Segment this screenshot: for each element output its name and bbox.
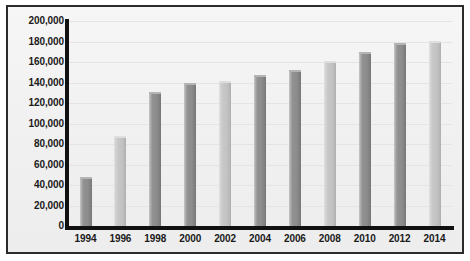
bar-top-cap [394, 43, 406, 45]
y-tick-label: 120,000 [10, 98, 64, 108]
y-tick-label: 160,000 [10, 57, 64, 67]
x-tick-label: 2002 [207, 233, 243, 245]
bar-2002[interactable] [219, 81, 231, 227]
x-tick-label: 2010 [347, 233, 383, 245]
bar-2014[interactable] [429, 41, 441, 227]
bar-body [80, 177, 92, 226]
x-tick-label: 1998 [137, 233, 173, 245]
bar-2004[interactable] [254, 75, 266, 226]
y-tick-label: 180,000 [10, 37, 64, 47]
bar-top-cap [429, 41, 441, 43]
y-tick-label: 20,000 [10, 201, 64, 211]
bar-top-cap [324, 61, 336, 63]
bar-body [289, 70, 301, 226]
y-tick-label: 0 [10, 221, 64, 231]
x-tick-label: 2006 [277, 233, 313, 245]
bar-body [219, 81, 231, 227]
gridline [68, 21, 452, 22]
y-tick-label: 100,000 [10, 119, 64, 129]
bar-top-cap [289, 70, 301, 72]
bar-body [359, 52, 371, 226]
chart-figure: 020,00040,00060,00080,000100,000120,0001… [0, 0, 470, 261]
bar-top-cap [114, 136, 126, 138]
bar-body [149, 92, 161, 226]
bar-top-cap [149, 92, 161, 94]
bar-top-cap [219, 81, 231, 83]
bar-1994[interactable] [80, 177, 92, 226]
chart-frame: 020,00040,00060,00080,000100,000120,0001… [6, 5, 464, 254]
bar-body [254, 75, 266, 226]
x-axis-line [65, 226, 454, 230]
x-axis-tick-labels: 1994199619982000200220042006200820102012… [65, 233, 454, 247]
y-tick-label: 80,000 [10, 139, 64, 149]
bar-2010[interactable] [359, 52, 371, 226]
chart-panel: 020,00040,00060,00080,000100,000120,0001… [8, 7, 462, 252]
bar-top-cap [254, 75, 266, 77]
y-tick-label: 60,000 [10, 160, 64, 170]
bar-body [114, 136, 126, 226]
bar-1998[interactable] [149, 92, 161, 226]
bar-top-cap [359, 52, 371, 54]
bar-body [394, 43, 406, 227]
plot-area [68, 21, 452, 226]
x-tick-label: 2012 [382, 233, 418, 245]
y-tick-label: 140,000 [10, 78, 64, 88]
x-tick-label: 2000 [172, 233, 208, 245]
bar-body [429, 41, 441, 227]
y-axis-tick-labels: 020,00040,00060,00080,000100,000120,0001… [8, 7, 64, 252]
bar-2008[interactable] [324, 61, 336, 226]
x-tick-label: 2014 [417, 233, 453, 245]
bar-top-cap [80, 177, 92, 179]
y-tick-label: 40,000 [10, 180, 64, 190]
x-tick-label: 1996 [102, 233, 138, 245]
y-axis-line [65, 19, 69, 228]
bar-body [184, 83, 196, 227]
x-tick-label: 1994 [68, 233, 104, 245]
x-tick-label: 2008 [312, 233, 348, 245]
bar-1996[interactable] [114, 136, 126, 226]
bar-2000[interactable] [184, 83, 196, 227]
x-tick-label: 2004 [242, 233, 278, 245]
bar-2012[interactable] [394, 43, 406, 227]
bar-2006[interactable] [289, 70, 301, 226]
bar-body [324, 61, 336, 226]
bar-top-cap [184, 83, 196, 85]
y-tick-label: 200,000 [10, 16, 64, 26]
